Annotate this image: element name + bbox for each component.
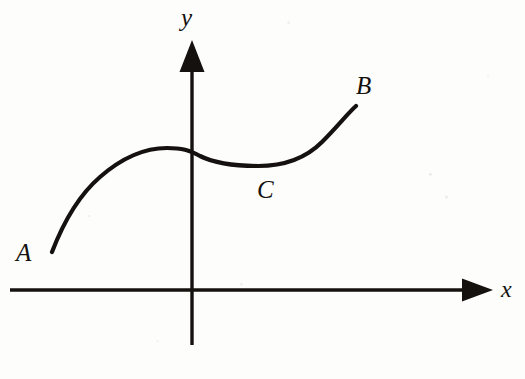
arrow-right-icon [462,279,493,302]
point-label-a: A [16,240,31,265]
curve-path [52,106,356,252]
figure-canvas: y x A B C [0,0,525,379]
arrow-up-icon [180,40,205,72]
point-label-b: B [356,73,371,98]
point-label-c: C [257,177,274,202]
x-axis-label: x [501,277,512,301]
y-axis-label: y [181,5,192,30]
